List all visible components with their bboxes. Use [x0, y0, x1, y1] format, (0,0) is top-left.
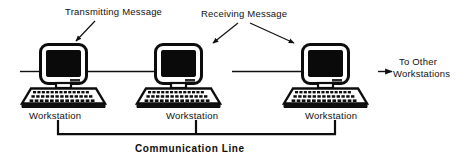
monitor-stand — [171, 83, 186, 88]
workstation-1-label: Workstation — [29, 110, 81, 121]
monitor-icon — [303, 45, 349, 84]
transmitting-message-label: Transmitting Message — [65, 6, 162, 17]
communication-line-bracket — [57, 120, 336, 135]
workstation-3-label: Workstation — [305, 110, 357, 121]
monitor-stand — [56, 83, 71, 88]
keyboard-icon — [22, 89, 105, 108]
monitor-icon — [41, 45, 87, 84]
receiving-leader-arrow-right — [250, 23, 294, 43]
network-diagram: Transmitting Message Receiving Message T… — [0, 0, 466, 159]
transmitting-leader-arrow — [76, 21, 95, 41]
workstation-2[interactable] — [137, 45, 220, 108]
to-other-label-line2: Workstations — [393, 68, 450, 79]
monitor-stand — [318, 83, 333, 88]
workstation-2-label: Workstation — [166, 110, 218, 121]
communication-line-label: Communication Line — [135, 143, 245, 154]
receiving-message-label: Receiving Message — [201, 8, 287, 19]
to-other-label-line1: To Other — [399, 56, 437, 67]
receiving-leader-arrow-left — [213, 23, 238, 43]
workstation-3[interactable] — [284, 45, 367, 108]
keyboard-icon — [137, 89, 220, 108]
workstation-1[interactable] — [22, 45, 105, 108]
keyboard-icon — [284, 89, 367, 108]
monitor-icon — [156, 45, 202, 84]
diagram-canvas: Transmitting Message Receiving Message T… — [0, 0, 466, 159]
